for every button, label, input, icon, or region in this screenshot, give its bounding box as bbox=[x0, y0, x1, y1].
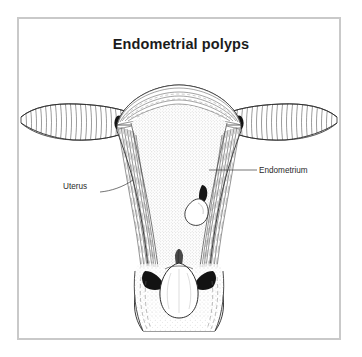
figure-root: Endometrial polyps bbox=[0, 0, 362, 357]
label-endometrium: Endometrium bbox=[259, 166, 308, 175]
uterus-illustration bbox=[19, 19, 339, 338]
label-uterus: Uterus bbox=[63, 182, 87, 191]
